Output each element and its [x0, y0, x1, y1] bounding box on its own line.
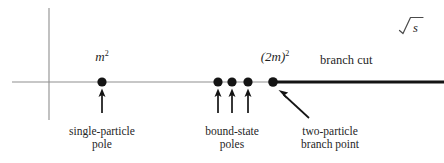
bound-state-pole-dot-2 — [227, 77, 236, 86]
single-particle-pole-caption-line2: pole — [69, 138, 135, 151]
sqrt-s-axis-label: s — [398, 16, 418, 36]
bound-state-pole-arrow-3 — [245, 89, 252, 114]
feynman-s-plane-figure: s m2 (2m)2 branch cut single-particle po… — [0, 0, 444, 163]
sqrt-radicand-label: s — [413, 21, 418, 36]
single-particle-pole-label: m2 — [95, 50, 108, 65]
bound-state-poles-caption: bound-state poles — [205, 125, 259, 151]
threshold-label: (2m)2 — [261, 50, 290, 65]
single-pole-exponent: 2 — [105, 49, 109, 58]
two-particle-branch-point-caption: two-particle branch point — [301, 125, 359, 151]
bound-state-poles-caption-line2: poles — [205, 138, 259, 151]
two-particle-branch-point-arrow — [279, 90, 310, 118]
bound-state-pole-dot-1 — [213, 77, 222, 86]
bound-state-poles-caption-line1: bound-state — [205, 125, 259, 138]
radical-sign-icon — [398, 16, 424, 36]
bound-state-pole-arrow-2 — [229, 89, 236, 114]
single-particle-pole-dot — [97, 77, 106, 86]
single-particle-pole-caption-line1: single-particle — [69, 125, 135, 138]
axes-group — [12, 8, 444, 120]
single-pole-symbol: m — [95, 49, 104, 64]
single-particle-pole-caption: single-particle pole — [69, 125, 135, 151]
bound-state-pole-dot-3 — [243, 77, 252, 86]
two-particle-branch-point-caption-line2: branch point — [301, 138, 359, 151]
branch-cut-label: branch cut — [320, 53, 372, 67]
single-particle-pole-arrow — [99, 89, 106, 114]
threshold-exponent: 2 — [285, 49, 289, 58]
bound-state-pole-arrow-1 — [215, 89, 222, 114]
threshold-symbol: (2m) — [261, 49, 286, 64]
arrows-group — [99, 89, 310, 119]
two-particle-branch-point-caption-line1: two-particle — [301, 125, 359, 138]
two-particle-branch-point-dot — [268, 77, 278, 87]
